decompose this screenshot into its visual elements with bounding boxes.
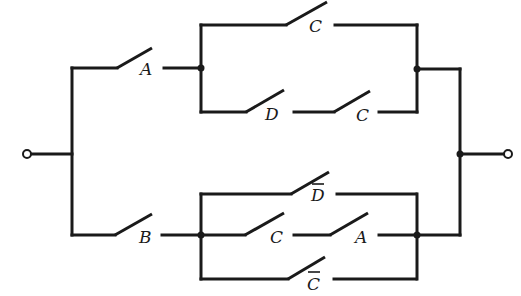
switch-label-c-bar: C bbox=[307, 274, 320, 294]
switch-label-c: C bbox=[356, 105, 369, 125]
input-terminal bbox=[23, 150, 31, 158]
switch-label-d: D bbox=[264, 104, 279, 124]
switch-label-c: C bbox=[309, 16, 322, 36]
junction-node bbox=[198, 65, 205, 72]
switch-b-lower: B bbox=[72, 214, 201, 247]
upper-parallel-block: C D C bbox=[198, 2, 461, 125]
switch-a-upper: A bbox=[72, 48, 201, 79]
input-terminal-group bbox=[23, 68, 72, 235]
output-terminal-group bbox=[457, 69, 513, 235]
switch-label-a: A bbox=[138, 59, 152, 79]
switching-circuit-diagram: A C D C B D bbox=[0, 0, 521, 296]
switch-label-d-bar: D bbox=[310, 185, 325, 205]
switch-label-c: C bbox=[270, 227, 283, 247]
switch-label-a: A bbox=[353, 227, 367, 247]
output-terminal bbox=[504, 150, 512, 158]
lower-parallel-block: D C A C bbox=[198, 172, 461, 294]
switch-label-b: B bbox=[138, 227, 152, 247]
